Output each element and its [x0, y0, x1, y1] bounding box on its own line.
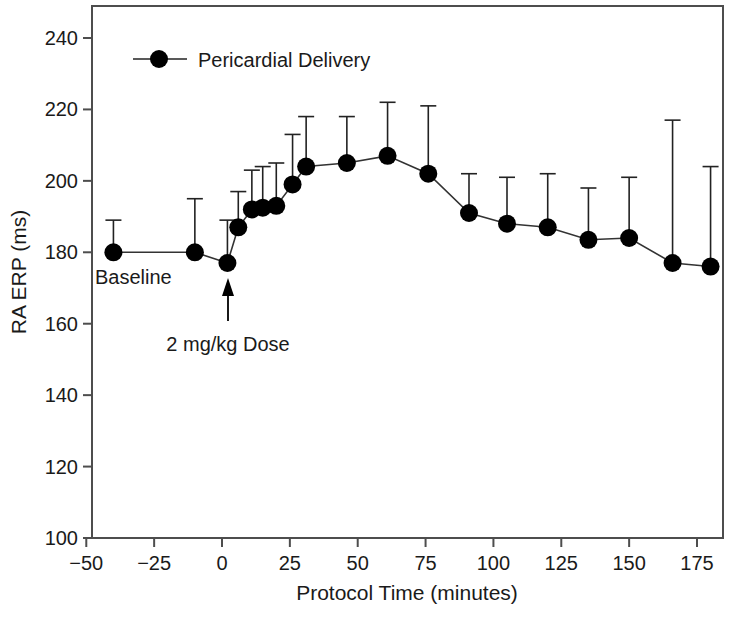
legend-marker-icon [150, 50, 168, 68]
data-point-marker [338, 154, 356, 172]
x-tick-label-175: 175 [680, 552, 713, 574]
x-axis-title: Protocol Time (minutes) [296, 581, 518, 604]
data-point-marker [229, 218, 247, 236]
data-point-marker [539, 218, 557, 236]
data-point-marker [664, 254, 682, 272]
x-tick-label-25: 25 [279, 552, 301, 574]
y-tick-label-200: 200 [45, 170, 78, 192]
y-tick-label-180: 180 [45, 241, 78, 263]
y-tick-label-160: 160 [45, 313, 78, 335]
y-tick-label-140: 140 [45, 384, 78, 406]
data-point-marker [267, 197, 285, 215]
data-point-marker [620, 229, 638, 247]
y-axis-title: RA ERP (ms) [7, 210, 30, 334]
chart-figure: 100120140160180200220240 −50−25025507510… [0, 0, 731, 619]
annotation-dose: 2 mg/kg Dose [166, 333, 289, 355]
y-tick-label-100: 100 [45, 527, 78, 549]
plot-frame [92, 6, 723, 538]
annotation-baseline: Baseline [95, 266, 172, 288]
x-axis-ticks [86, 538, 697, 547]
data-point-marker [284, 175, 302, 193]
data-point-marker [186, 243, 204, 261]
x-tick-label--25: −25 [137, 552, 171, 574]
y-tick-label-240: 240 [45, 27, 78, 49]
data-point-marker [460, 204, 478, 222]
data-point-marker [297, 158, 315, 176]
x-tick-label-0: 0 [216, 552, 227, 574]
data-point-marker [104, 243, 122, 261]
chart-legend: Pericardial Delivery [133, 49, 370, 71]
x-tick-label-100: 100 [477, 552, 510, 574]
dose-arrow-annotation: 2 mg/kg Dose [166, 278, 289, 355]
x-axis-tick-labels: −50−250255075100125150175 [69, 552, 713, 574]
y-tick-label-120: 120 [45, 456, 78, 478]
x-tick-label-75: 75 [414, 552, 436, 574]
y-axis-ticks [83, 38, 92, 538]
data-point-marker [218, 254, 236, 272]
dose-arrow-head-icon [222, 278, 234, 296]
x-tick-label-125: 125 [545, 552, 578, 574]
y-tick-label-220: 220 [45, 98, 78, 120]
data-point-marker [419, 165, 437, 183]
data-point-marker [498, 215, 516, 233]
legend-label-pericardial-delivery: Pericardial Delivery [198, 49, 370, 71]
data-point-marker [379, 147, 397, 165]
data-point-marker [702, 258, 720, 276]
x-tick-label-150: 150 [612, 552, 645, 574]
data-point-marker [579, 231, 597, 249]
chart-canvas: 100120140160180200220240 −50−25025507510… [0, 0, 731, 619]
x-tick-label--50: −50 [69, 552, 103, 574]
y-axis-tick-labels: 100120140160180200220240 [45, 27, 78, 549]
x-tick-label-50: 50 [347, 552, 369, 574]
